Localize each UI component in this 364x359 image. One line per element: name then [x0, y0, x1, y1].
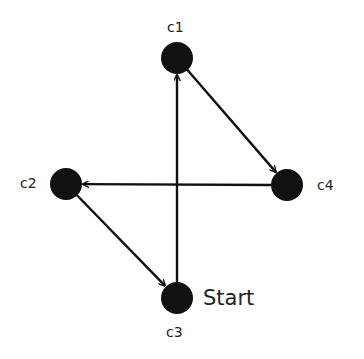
node-label-c2: c2	[20, 176, 37, 190]
graph-canvas	[0, 0, 364, 359]
node-label-c1: c1	[167, 20, 184, 34]
edge-c2-to-c3	[76, 194, 165, 286]
node-label-c4: c4	[317, 178, 334, 192]
node-c3	[161, 282, 193, 314]
node-c4	[271, 169, 303, 201]
edge-c1-to-c4	[186, 69, 276, 173]
node-c2	[50, 168, 82, 200]
start-label: Start	[203, 288, 254, 309]
node-label-c3: c3	[166, 325, 183, 339]
edges-group	[76, 69, 276, 286]
node-c1	[161, 42, 193, 74]
edge-c4-to-c2	[83, 184, 273, 185]
directed-graph-diagram: c1 c2 c3 c4 Start	[0, 0, 364, 359]
